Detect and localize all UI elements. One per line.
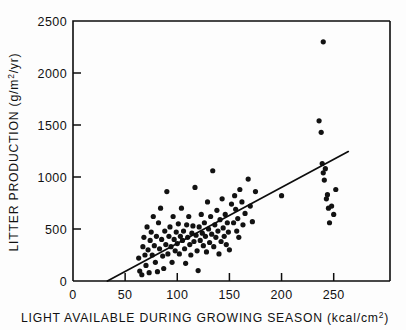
- data-point: [192, 185, 197, 190]
- data-point: [214, 208, 219, 213]
- data-point: [209, 232, 214, 237]
- data-point: [203, 234, 208, 239]
- data-point: [231, 220, 236, 225]
- data-point: [250, 219, 255, 224]
- x-tick-label: 250: [323, 288, 345, 302]
- data-point: [148, 238, 153, 243]
- data-point: [235, 216, 240, 221]
- data-point: [144, 224, 149, 229]
- data-point: [143, 263, 148, 268]
- y-tick-label: 0: [60, 275, 67, 289]
- data-point: [171, 214, 176, 219]
- data-point: [152, 243, 157, 248]
- y-tick-label: 1500: [38, 119, 67, 133]
- regression-line: [107, 152, 348, 281]
- data-point: [234, 228, 239, 233]
- data-point: [246, 176, 251, 181]
- data-point: [208, 214, 213, 219]
- data-point: [216, 251, 221, 256]
- data-point: [187, 242, 192, 247]
- data-point: [166, 234, 171, 239]
- data-point: [316, 118, 321, 123]
- data-point: [181, 228, 186, 233]
- data-point: [159, 237, 164, 242]
- x-tick-label: 100: [166, 288, 188, 302]
- data-point: [327, 220, 332, 225]
- data-point: [331, 212, 336, 217]
- data-point: [325, 192, 330, 197]
- data-point: [165, 251, 170, 256]
- data-point: [164, 189, 169, 194]
- data-point: [213, 235, 218, 240]
- data-point: [145, 247, 150, 252]
- data-point: [190, 223, 195, 228]
- data-point: [236, 235, 241, 240]
- scatter-plot: 05001000150020002500 050100150200250 LIT…: [0, 0, 406, 330]
- data-point: [157, 246, 162, 251]
- data-point: [169, 260, 174, 265]
- data-point: [201, 243, 206, 248]
- data-point: [199, 212, 204, 217]
- data-point: [207, 240, 212, 245]
- data-point: [220, 196, 225, 201]
- data-point: [186, 214, 191, 219]
- data-point: [226, 230, 231, 235]
- data-point: [155, 269, 160, 274]
- data-point: [211, 244, 216, 249]
- data-point: [196, 268, 201, 273]
- data-point: [323, 166, 328, 171]
- data-point: [232, 193, 237, 198]
- axes-group: [73, 21, 390, 281]
- data-point: [160, 253, 165, 258]
- data-point: [239, 199, 244, 204]
- data-point: [147, 270, 152, 275]
- data-point: [177, 251, 182, 256]
- y-tick-label: 2000: [38, 67, 67, 81]
- x-axis-title: LIGHT AVAILABLE DURING GROWING SEASON (k…: [21, 310, 389, 325]
- x-tick-label: 50: [118, 288, 133, 302]
- data-point: [156, 220, 161, 225]
- data-point: [161, 266, 166, 271]
- data-point: [191, 239, 196, 244]
- data-point: [176, 221, 181, 226]
- data-points-group: [136, 39, 338, 277]
- data-point: [151, 214, 156, 219]
- data-point: [229, 201, 234, 206]
- data-point: [242, 211, 247, 216]
- y-tick-label: 2500: [38, 15, 67, 29]
- data-point: [163, 242, 168, 247]
- data-point: [162, 228, 167, 233]
- data-point: [225, 220, 230, 225]
- data-point: [140, 244, 145, 249]
- data-point: [240, 222, 245, 227]
- x-tick-label: 200: [271, 288, 293, 302]
- data-point: [322, 178, 327, 183]
- data-point: [222, 234, 227, 239]
- data-point: [174, 230, 179, 235]
- data-point: [167, 224, 172, 229]
- x-axis-ticks: 050100150200250: [69, 273, 344, 302]
- data-point: [142, 252, 147, 257]
- data-point: [136, 256, 141, 261]
- axis-frame: [73, 21, 390, 281]
- figure-container: 05001000150020002500 050100150200250 LIT…: [0, 0, 406, 330]
- data-point: [182, 246, 187, 251]
- data-point: [173, 248, 178, 253]
- data-point: [198, 238, 203, 243]
- data-point: [253, 189, 258, 194]
- data-point: [158, 206, 163, 211]
- data-point: [197, 224, 202, 229]
- data-point: [221, 225, 226, 230]
- data-point: [172, 237, 177, 242]
- data-point: [153, 260, 158, 265]
- data-point: [210, 168, 215, 173]
- x-tick-label: 150: [218, 288, 240, 302]
- data-point: [224, 242, 229, 247]
- data-point: [184, 222, 189, 227]
- data-point: [329, 204, 334, 209]
- data-point: [227, 247, 232, 252]
- data-point: [205, 199, 210, 204]
- data-point: [149, 230, 154, 235]
- data-point: [215, 228, 220, 233]
- y-tick-label: 500: [45, 223, 67, 237]
